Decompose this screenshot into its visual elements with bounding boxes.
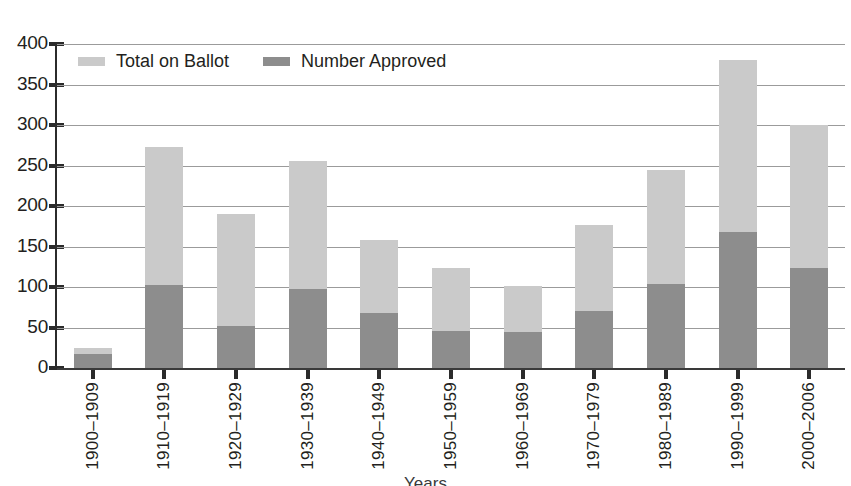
x-category-label: 1970–1979 (584, 382, 604, 470)
bar-group (719, 44, 757, 368)
y-tick-label-0: 0 (4, 356, 48, 378)
x-category-label: 1920–1929 (226, 382, 246, 470)
bar-number-approved (790, 268, 828, 368)
bar-number-approved (719, 232, 757, 368)
legend-item-total-on-ballot: Total on Ballot (78, 51, 229, 72)
legend-item-number-approved: Number Approved (263, 51, 446, 72)
bar-group (432, 44, 470, 368)
legend-swatch-icon (263, 57, 290, 66)
y-tick-label-300: 300 (4, 113, 48, 135)
bar-number-approved (504, 332, 542, 368)
x-tick (234, 370, 238, 379)
y-tick-label-100: 100 (4, 275, 48, 297)
y-tick-label-200: 200 (4, 194, 48, 216)
x-tick (306, 370, 310, 379)
legend-swatch-icon (78, 57, 105, 66)
bar-group (575, 44, 613, 368)
bar-group (790, 44, 828, 368)
x-tick (377, 370, 381, 379)
x-category-label: 1930–1939 (298, 382, 318, 470)
cropped-header-text (0, 0, 851, 14)
bar-number-approved (145, 285, 183, 368)
x-tick (664, 370, 668, 379)
bar-group (217, 44, 255, 368)
bar-group (145, 44, 183, 368)
bar-group (504, 44, 542, 368)
x-category-label: 1910–1919 (154, 382, 174, 470)
y-axis-labels: 050100150200250300350400 (0, 0, 48, 486)
x-tick (449, 370, 453, 379)
y-tick-label-250: 250 (4, 154, 48, 176)
chart-page: 050100150200250300350400 1900–19091910–1… (0, 0, 851, 486)
x-category-label: 1980–1989 (656, 382, 676, 470)
x-tick (162, 370, 166, 379)
bar-number-approved (432, 331, 470, 368)
x-category-label: 1900–1909 (83, 382, 103, 470)
x-category-label: 1960–1969 (513, 382, 533, 470)
y-tick-label-50: 50 (4, 316, 48, 338)
x-axis-title: Years (0, 474, 851, 486)
bar-number-approved (360, 313, 398, 368)
x-tick (91, 370, 95, 379)
bar-number-approved (74, 354, 112, 368)
x-tick (736, 370, 740, 379)
x-tick (807, 370, 811, 379)
legend-label-total-on-ballot: Total on Ballot (116, 51, 229, 72)
bar-number-approved (575, 311, 613, 369)
bar-number-approved (217, 326, 255, 368)
y-tick-label-350: 350 (4, 73, 48, 95)
x-category-label: 1950–1959 (441, 382, 461, 470)
legend-label-number-approved: Number Approved (301, 51, 446, 72)
bar-group (360, 44, 398, 368)
x-tick (521, 370, 525, 379)
x-category-label: 1940–1949 (369, 382, 389, 470)
bar-number-approved (647, 284, 685, 368)
chart-legend: Total on Ballot Number Approved (78, 48, 446, 74)
bar-group (647, 44, 685, 368)
y-tick-label-150: 150 (4, 235, 48, 257)
x-category-label: 1990–1999 (728, 382, 748, 470)
x-tick (592, 370, 596, 379)
bar-group (289, 44, 327, 368)
y-tick-label-400: 400 (4, 32, 48, 54)
bar-number-approved (289, 289, 327, 368)
plot-area (57, 44, 845, 368)
x-category-label: 2000–2006 (799, 382, 819, 470)
bar-group (74, 44, 112, 368)
